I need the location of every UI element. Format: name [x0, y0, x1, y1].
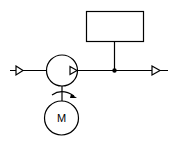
motor-label: M	[57, 112, 66, 124]
junction-dot	[112, 68, 116, 72]
pump-diagram: M	[0, 0, 179, 147]
instrument-box	[87, 12, 144, 42]
inlet-arrow-icon	[16, 66, 23, 75]
rotation-arrowhead-icon	[70, 94, 77, 98]
outlet-arrow-icon	[152, 66, 160, 75]
